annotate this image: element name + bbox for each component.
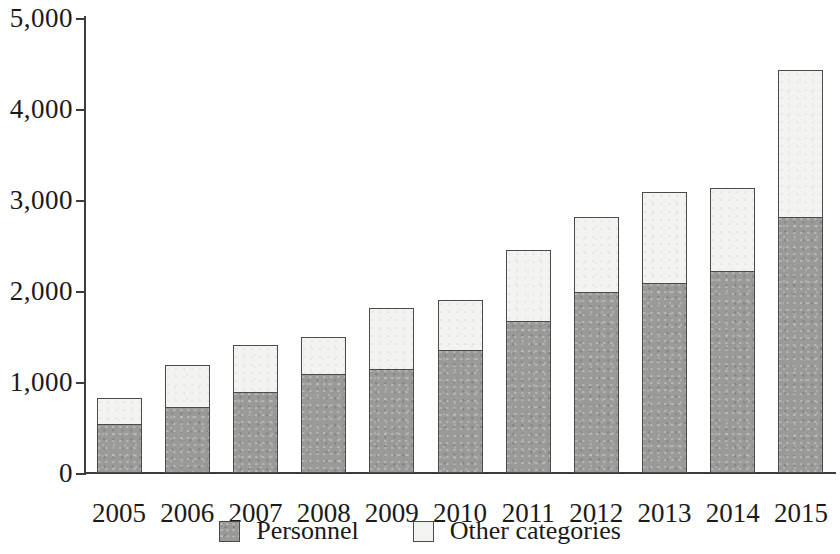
y-tick-label: 1,000 <box>10 367 73 398</box>
bar-segment-other-categories[interactable] <box>574 217 619 293</box>
bar-2012[interactable] <box>574 215 619 473</box>
legend-item-personnel[interactable]: Personnel <box>219 516 359 546</box>
y-tick-mark <box>76 382 85 384</box>
bar-segment-other-categories[interactable] <box>233 345 278 392</box>
bar-segment-personnel[interactable] <box>574 291 619 473</box>
bar-segment-personnel[interactable] <box>710 270 755 473</box>
bar-2008[interactable] <box>301 336 346 473</box>
y-tick-mark <box>76 109 85 111</box>
bar-segment-personnel[interactable] <box>97 424 142 473</box>
legend-swatch-icon <box>413 521 434 542</box>
bar-segment-personnel[interactable] <box>165 407 210 473</box>
stacked-bar-chart: 5,0004,0003,0002,0001,0000 2005200620072… <box>0 0 840 554</box>
y-tick-label: 4,000 <box>10 94 73 125</box>
bar-segment-personnel[interactable] <box>642 282 687 473</box>
y-tick-mark <box>76 200 85 202</box>
bar-segment-personnel[interactable] <box>438 349 483 473</box>
legend-item-other-categories[interactable]: Other categories <box>413 516 621 546</box>
bars-group <box>85 18 835 473</box>
bar-segment-personnel[interactable] <box>301 374 346 473</box>
bar-2005[interactable] <box>97 397 142 473</box>
bar-2011[interactable] <box>506 248 551 473</box>
legend-label: Personnel <box>256 516 359 546</box>
y-tick-label: 0 <box>59 458 73 489</box>
bar-2009[interactable] <box>369 306 414 473</box>
bar-segment-other-categories[interactable] <box>778 70 823 218</box>
bar-segment-other-categories[interactable] <box>97 398 142 425</box>
bar-2015[interactable] <box>778 68 823 473</box>
bar-segment-other-categories[interactable] <box>438 300 483 351</box>
y-tick-label: 5,000 <box>10 3 73 34</box>
bar-segment-personnel[interactable] <box>233 391 278 473</box>
y-tick-mark <box>76 18 85 20</box>
bar-2014[interactable] <box>710 186 755 473</box>
bar-segment-personnel[interactable] <box>778 216 823 473</box>
bar-segment-other-categories[interactable] <box>165 365 210 408</box>
bar-segment-personnel[interactable] <box>506 320 551 473</box>
bar-2007[interactable] <box>233 344 278 473</box>
y-tick-mark <box>76 291 85 293</box>
bar-segment-other-categories[interactable] <box>369 308 414 370</box>
legend-label: Other categories <box>450 516 621 546</box>
legend-swatch-icon <box>219 521 240 542</box>
plot-area: 5,0004,0003,0002,0001,0000 2005200620072… <box>85 18 835 473</box>
bar-2010[interactable] <box>438 298 483 473</box>
bar-segment-other-categories[interactable] <box>506 250 551 322</box>
y-tick-label: 2,000 <box>10 276 73 307</box>
y-tick-mark <box>76 473 85 475</box>
bar-2006[interactable] <box>165 364 210 473</box>
bar-segment-other-categories[interactable] <box>710 188 755 272</box>
bar-segment-personnel[interactable] <box>369 368 414 473</box>
y-tick-label: 3,000 <box>10 185 73 216</box>
chart-legend: PersonnelOther categories <box>0 516 840 546</box>
bar-segment-other-categories[interactable] <box>301 337 346 375</box>
bar-segment-other-categories[interactable] <box>642 192 687 284</box>
bar-2013[interactable] <box>642 190 687 473</box>
